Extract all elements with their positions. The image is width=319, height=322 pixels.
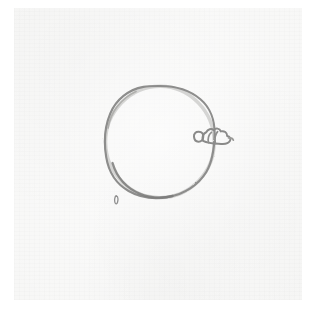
paper-texture xyxy=(14,8,302,300)
paper-vignette xyxy=(14,8,302,300)
paper-sheet xyxy=(14,8,302,300)
screenshot-canvas: A hand-drawn circle in light graphite on… xyxy=(0,0,319,322)
